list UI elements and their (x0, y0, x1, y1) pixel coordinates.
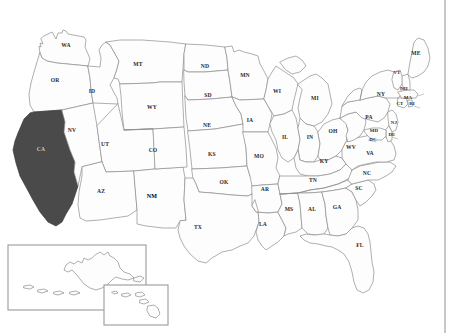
state-label-in: IN (307, 134, 314, 140)
state-label-mt: MT (133, 61, 142, 67)
state-label-tn: TN (309, 177, 317, 183)
state-label-wi: WI (273, 88, 281, 94)
state-label-sc: SC (355, 185, 362, 191)
state-label-ms: MS (285, 206, 294, 212)
state-label-mn: MN (240, 72, 250, 78)
state-label-nv: NV (68, 127, 76, 133)
state-nm[interactable] (134, 167, 186, 228)
state-label-ky: KY (320, 158, 329, 164)
state-fl[interactable] (300, 226, 374, 293)
state-label-ma: MA (404, 95, 413, 100)
state-label-md: MD (370, 128, 379, 133)
state-label-nj: NJ (391, 120, 398, 125)
state-label-mo: MO (254, 153, 264, 159)
state-label-ok: OK (219, 179, 229, 185)
state-label-az: AZ (97, 188, 105, 194)
state-me[interactable] (408, 38, 430, 78)
state-label-ny: NY (377, 91, 385, 97)
state-label-ga: GA (333, 204, 342, 210)
state-label-va: VA (366, 150, 374, 156)
us-states-map-figure: WAORCANVIDMTWYUTAZNMCONDSDNEKSOKTXMNIAMO… (0, 0, 455, 333)
state-label-ia: IA (247, 117, 254, 123)
state-label-fl: FL (356, 242, 364, 248)
leader-line-ma (418, 94, 424, 96)
state-label-nd: ND (201, 63, 209, 69)
leader-line-ri (414, 106, 420, 108)
state-label-ar: AR (261, 186, 270, 192)
state-label-ri: RI (409, 101, 415, 106)
state-label-sd: SD (204, 92, 211, 98)
us-map-canvas: WAORCANVIDMTWYUTAZNMCONDSDNEKSOKTXMNIAMO… (0, 0, 455, 333)
state-label-co: CO (149, 147, 158, 153)
state-label-oh: OH (328, 128, 338, 134)
state-label-il: IL (282, 134, 288, 140)
state-label-ca: CA (37, 146, 45, 152)
state-label-mi: MI (311, 95, 319, 101)
state-label-la: LA (259, 221, 267, 227)
state-label-wa: WA (61, 42, 70, 48)
state-label-id: ID (89, 88, 96, 94)
state-ks[interactable] (188, 124, 247, 169)
state-label-wv: WV (346, 144, 356, 150)
state-label-vt: VT (393, 70, 401, 75)
state-label-tx: TX (194, 224, 202, 230)
state-label-me: ME (411, 50, 420, 56)
state-label-ut: UT (101, 141, 109, 147)
state-label-pa: PA (365, 114, 372, 120)
state-label-wy: WY (147, 104, 157, 110)
state-label-nc: NC (363, 170, 371, 176)
state-label-ne: NE (203, 122, 211, 128)
state-label-dc: DC (369, 137, 377, 142)
state-label-nm: NM (147, 193, 158, 199)
state-label-or: OR (51, 77, 61, 83)
state-label-ks: KS (208, 151, 216, 157)
state-label-de: DE (388, 132, 396, 137)
leader-line-de (392, 137, 398, 139)
state-label-al: AL (308, 206, 316, 212)
state-label-ct: CT (396, 101, 404, 106)
hawaii-inset-frame (104, 285, 168, 325)
state-label-nh: NH (400, 86, 408, 91)
